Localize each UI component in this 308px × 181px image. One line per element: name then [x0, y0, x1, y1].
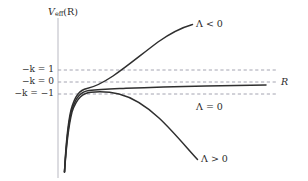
curve-lambda-negative	[65, 25, 193, 173]
curve-lambda-zero	[65, 85, 267, 172]
y-axis-title-main: V	[48, 6, 55, 17]
curve-label-lambda-negative: Λ < 0	[196, 18, 223, 29]
y-axis-title-arg: (R)	[63, 6, 78, 17]
curve-label-lambda-zero: Λ = 0	[196, 101, 223, 112]
tick-label-k-1: −k = 1	[6, 64, 54, 74]
y-axis-title: Veff(R)	[48, 6, 78, 18]
tick-label-k-minus-1: −k = −1	[2, 88, 54, 98]
x-axis-title: R	[281, 76, 288, 87]
curve-label-lambda-positive: Λ > 0	[201, 153, 228, 164]
effective-potential-figure: Veff(R) R −k = 1 −k = 0 −k = −1 Λ < 0 Λ …	[0, 0, 308, 181]
curve-lambda-positive	[65, 92, 198, 172]
tick-label-k-0: −k = 0	[6, 76, 54, 86]
